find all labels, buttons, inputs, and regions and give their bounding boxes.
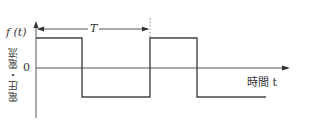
y-axis-label: f (t) — [6, 26, 27, 39]
period-arrow-right-icon — [142, 27, 149, 32]
x-axis-label: 時間 t — [247, 73, 277, 89]
period-label: T — [88, 22, 99, 35]
y-axis-arrow-icon — [34, 21, 39, 28]
y-axis-name-container: 電圧・電流 — [6, 40, 20, 108]
zero-label: 0 — [23, 61, 30, 74]
y-axis-name: 電圧・電流 — [6, 47, 21, 102]
square-wave-diagram — [0, 0, 309, 127]
x-axis-arrow-icon — [282, 66, 290, 71]
